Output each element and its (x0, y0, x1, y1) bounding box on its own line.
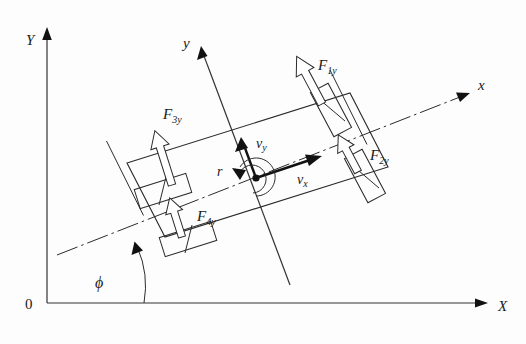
force-F3y-label: F3y (162, 106, 182, 125)
force-F3y-arrow (146, 128, 181, 188)
center-of-mass-group (232, 137, 322, 196)
yaw-angle-label: ϕ (95, 274, 103, 292)
force-F4y-group: F4y (161, 195, 216, 239)
front-axle-line (330, 70, 367, 145)
force-F4y-arrow (161, 195, 190, 239)
velocity-vy-label: vy (256, 136, 267, 153)
body-y-axis-label: y (181, 35, 190, 51)
global-x-axis-arrowhead (475, 298, 488, 307)
global-origin-label: 0 (25, 296, 33, 312)
text-labels: Y X 0 y x ϕ vx vy r (25, 32, 508, 314)
yaw-rate-arrowhead (232, 168, 246, 180)
body-x-axis-label: x (477, 77, 485, 93)
velocity-vy-shaft (245, 148, 256, 178)
global-y-axis-arrowhead (42, 27, 52, 40)
body-y-axis-arrowhead (197, 46, 208, 60)
yaw-angle-arrowhead (132, 242, 144, 256)
force-F4y-label: F4y (196, 208, 216, 227)
force-F2y-label: F2y (369, 147, 389, 166)
body-x-axis-group (57, 93, 470, 256)
vehicle-dynamics-figure: F3y F4y F1y (0, 0, 526, 344)
figure-canvas: F3y F4y F1y (0, 0, 526, 344)
wheel-rear-left-group (134, 173, 192, 208)
force-F1y-label: F1y (317, 57, 337, 76)
velocity-vx-label: vx (297, 172, 308, 189)
rear-axle-line (107, 141, 144, 216)
global-x-axis-label: X (497, 298, 508, 314)
yaw-angle-arc (138, 248, 146, 304)
global-axes (42, 27, 488, 308)
body-y-axis-group (197, 46, 290, 285)
force-F2y-arrow (330, 131, 366, 177)
velocity-vx-arrowhead (305, 155, 322, 167)
body-x-axis-arrowhead (456, 93, 470, 103)
global-y-axis-label: Y (26, 32, 36, 48)
yaw-rate-label: r (217, 164, 223, 179)
yaw-angle-arc-group (132, 242, 146, 304)
force-F1y-group: F1y (288, 52, 337, 109)
